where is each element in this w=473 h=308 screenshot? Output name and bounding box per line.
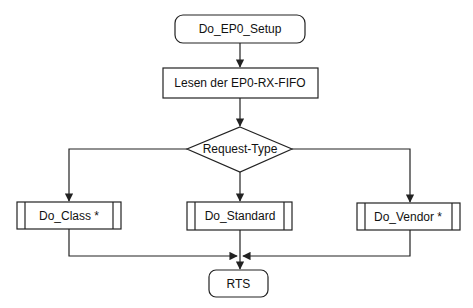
read-fifo-label: Lesen der EP0-RX-FIFO (174, 76, 305, 90)
edge-class-to-end (69, 229, 237, 256)
read-fifo-node: Lesen der EP0-RX-FIFO (163, 68, 318, 98)
do-class-label: Do_Class * (39, 209, 99, 223)
start-node-label: Do_EP0_Setup (199, 22, 282, 36)
do-vendor-node: Do_Vendor * (357, 203, 460, 230)
edge-decision-to-vendor (292, 149, 410, 202)
decision-node: Request-Type (187, 127, 292, 172)
end-node-label: RTS (227, 277, 251, 291)
do-standard-node: Do_Standard (187, 202, 292, 230)
start-node: Do_EP0_Setup (175, 15, 305, 43)
edge-vendor-to-end (243, 230, 410, 256)
flowchart-canvas: Do_EP0_Setup Lesen der EP0-RX-FIFO Reque… (0, 0, 473, 308)
do-class-node: Do_Class * (17, 202, 121, 229)
do-vendor-label: Do_Vendor * (374, 210, 442, 224)
end-node: RTS (209, 270, 268, 297)
decision-label: Request-Type (203, 142, 278, 156)
do-standard-label: Do_Standard (205, 209, 276, 223)
edge-decision-to-class (69, 149, 187, 201)
